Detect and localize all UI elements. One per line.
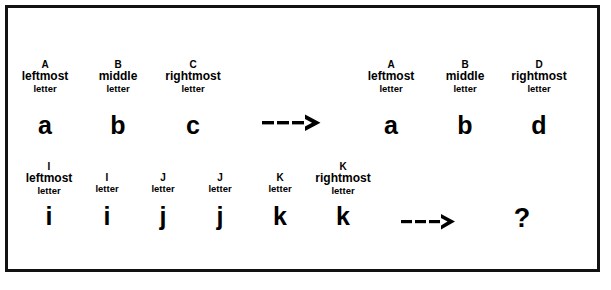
descriptor-word: middle [99,70,138,83]
descriptor-j-fourth: J letter [208,172,231,194]
descriptor-word: rightmost [511,70,566,83]
descriptor-a-leftmost-target: A leftmost letter [368,59,415,94]
descriptor-k-fifth: K letter [268,172,291,194]
letter-glyph: i [104,204,111,229]
descriptor-unit: letter [151,183,174,194]
letter-glyph: a [384,113,398,138]
descriptor-tag: J [208,172,231,183]
descriptor-unit: letter [26,185,73,196]
descriptor-word: leftmost [22,70,69,83]
descriptor-unit: letter [95,183,118,194]
analogy-figure: A leftmost letter a B middle letter b C … [0,0,611,290]
descriptor-a-leftmost: A leftmost letter [22,59,69,94]
descriptor-b-middle-target: B middle letter [446,59,485,94]
descriptor-word: rightmost [165,70,220,83]
descriptor-b-middle: B middle letter [99,59,138,94]
descriptor-word: leftmost [368,70,415,83]
descriptor-j-third: J letter [151,172,174,194]
letter-glyph: j [160,204,167,229]
descriptor-unit: letter [99,83,138,94]
descriptor-i-second: I letter [95,172,118,194]
descriptor-unit: letter [22,83,69,94]
descriptor-word: middle [446,70,485,83]
letter-glyph: j [217,204,224,229]
descriptor-unit: letter [446,83,485,94]
letter-glyph: a [38,113,52,138]
descriptor-unit: letter [368,83,415,94]
figure-border: A leftmost letter a B middle letter b C … [5,5,600,272]
descriptor-unit: letter [315,185,370,196]
descriptor-unit: letter [268,183,291,194]
descriptor-c-rightmost: C rightmost letter [165,59,220,94]
letter-glyph: k [273,204,287,229]
descriptor-word: leftmost [26,172,73,185]
descriptor-unit: letter [208,183,231,194]
descriptor-d-rightmost-target: D rightmost letter [511,59,566,94]
descriptor-tag: J [151,172,174,183]
descriptor-word: rightmost [315,172,370,185]
unknown-answer: ? [514,205,531,232]
mapping-arrow-top [262,114,324,132]
letter-glyph: i [46,204,53,229]
letter-glyph: b [457,113,472,138]
letter-glyph: c [186,113,200,138]
descriptor-unit: letter [165,83,220,94]
descriptor-tag: K [268,172,291,183]
descriptor-i-leftmost: I leftmost letter [26,161,73,196]
letter-glyph: k [336,204,350,229]
descriptor-k-rightmost: K rightmost letter [315,161,370,196]
letter-glyph: b [110,113,125,138]
mapping-arrow-bottom [401,213,459,231]
descriptor-tag: I [95,172,118,183]
letter-glyph: d [531,113,546,138]
descriptor-unit: letter [511,83,566,94]
